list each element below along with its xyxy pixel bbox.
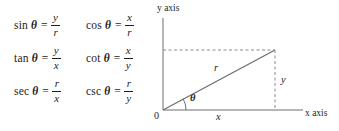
equals-sign: = (114, 53, 121, 65)
formula-function-name: cot (86, 53, 101, 65)
hypotenuse-label: r (214, 62, 218, 73)
fraction-numerator: r (54, 78, 60, 90)
fraction-denominator: y (125, 60, 132, 72)
fraction-numerator: y (53, 45, 60, 57)
angle-arc (183, 99, 186, 111)
formula-sec: sec θ = r x (14, 79, 86, 105)
equals-sign: = (41, 20, 48, 32)
equals-sign: = (114, 86, 121, 98)
formula-function-name: tan (14, 53, 29, 65)
origin-label: 0 (154, 110, 159, 121)
fraction-denominator: r (52, 27, 58, 39)
fraction-denominator: x (53, 93, 60, 105)
formula-function-name: sec (14, 86, 29, 98)
x-axis-label: x axis (305, 108, 327, 118)
fraction: y r (51, 12, 60, 38)
equals-sign: = (115, 20, 122, 32)
formula-row: tan θ = y x cot θ = x y (14, 45, 150, 73)
formula-angle-symbol: θ (32, 86, 38, 98)
formula-cot: cot θ = x y (86, 46, 150, 72)
fraction-numerator: x (125, 45, 132, 57)
fraction-denominator: y (125, 93, 132, 105)
fraction-numerator: r (126, 78, 132, 90)
formula-tan: tan θ = y x (14, 46, 86, 72)
formula-csc: csc θ = r y (86, 79, 150, 105)
formula-angle-symbol: θ (104, 86, 110, 98)
y-axis-label: y axis (157, 3, 179, 13)
formula-sin: sin θ = y r (14, 13, 86, 39)
angle-label: θ (190, 92, 195, 103)
formula-angle-symbol: θ (105, 20, 111, 32)
equals-sign: = (42, 86, 49, 98)
trig-reference-figure: sin θ = y r cos θ = x r (0, 0, 339, 131)
fraction: x r (125, 12, 134, 38)
formula-angle-symbol: θ (31, 20, 37, 32)
fraction-denominator: x (53, 60, 60, 72)
fraction-numerator: y (52, 12, 59, 24)
fraction: y x (52, 45, 61, 71)
formula-angle-symbol: θ (32, 53, 38, 65)
fraction: r y (124, 78, 133, 104)
equals-sign: = (42, 53, 49, 65)
formula-angle-symbol: θ (104, 53, 110, 65)
formula-cos: cos θ = x r (86, 13, 150, 39)
formula-row: sec θ = r x csc θ = r y (14, 78, 150, 106)
vertical-leg-label: y (281, 74, 286, 85)
formula-row: sin θ = y r cos θ = x r (14, 12, 150, 40)
fraction: r x (52, 78, 61, 104)
hypotenuse-line (163, 50, 275, 110)
fraction-denominator: r (126, 27, 132, 39)
formula-function-name: sin (14, 20, 28, 32)
trig-formula-list: sin θ = y r cos θ = x r (14, 10, 150, 110)
fraction: x y (124, 45, 133, 71)
fraction-numerator: x (126, 12, 133, 24)
formula-function-name: csc (86, 86, 101, 98)
formula-function-name: cos (86, 20, 102, 32)
horizontal-leg-label: x (216, 111, 221, 122)
reference-triangle-diagram: y axis x axis 0 r x y θ (150, 0, 339, 131)
